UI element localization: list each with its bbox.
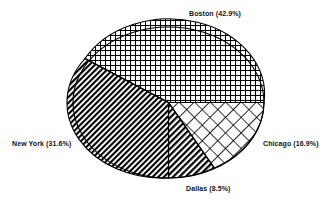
pie-chart-page: Boston (42.9%) New York (31.6%) Chicago … [0, 0, 335, 204]
pie-chart-figure [0, 0, 335, 204]
pie-label-newyork: New York (31.6%) [12, 139, 71, 148]
pie-label-boston: Boston (42.9%) [189, 9, 241, 18]
pie-label-chicago: Chicago (16.9%) [263, 139, 319, 148]
pie-label-dallas: Dallas (8.5%) [186, 184, 231, 193]
